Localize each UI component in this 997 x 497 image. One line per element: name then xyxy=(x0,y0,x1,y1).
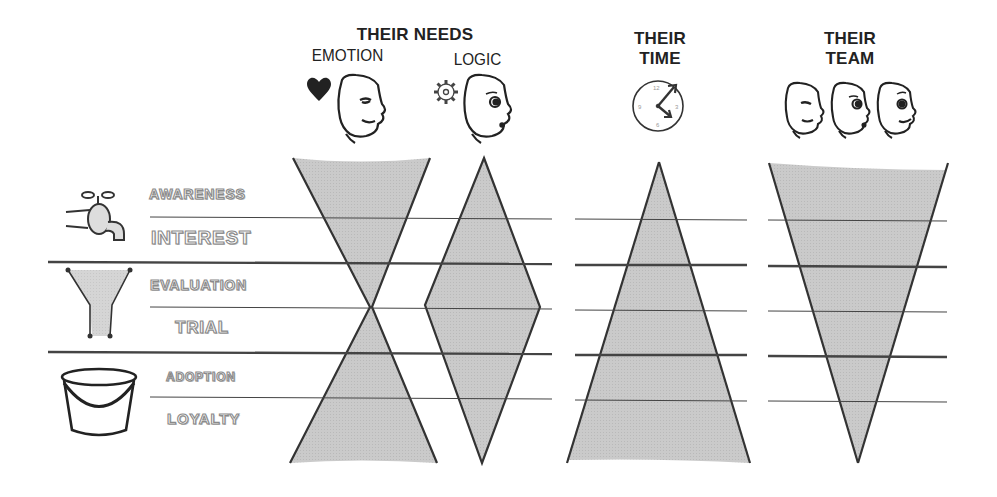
svg-text:12: 12 xyxy=(653,85,660,91)
header-their-time: THEIR TIME xyxy=(620,29,700,69)
stage-loyalty: LOYALTY xyxy=(167,410,240,427)
header-emotion: EMOTION xyxy=(305,46,391,66)
triangle-down-shape-team xyxy=(769,163,948,463)
header-time-line1: THEIR xyxy=(620,29,700,49)
stage-trial: TRIAL xyxy=(175,318,229,338)
header-team-line2: TEAM xyxy=(810,49,890,69)
header-their-needs: THEIR NEEDS xyxy=(320,25,510,45)
header-logic: LOGIC xyxy=(444,50,512,70)
svg-text:9: 9 xyxy=(638,104,642,110)
bucket-icon xyxy=(62,369,136,435)
funnel-icon xyxy=(66,268,133,339)
svg-text:6: 6 xyxy=(656,122,660,128)
hourglass-shape-emotion xyxy=(290,158,437,463)
header-team-line1: THEIR xyxy=(810,29,890,49)
clock-icon: 12 9 3 6 xyxy=(633,81,683,131)
triangle-up-shape-time xyxy=(567,162,750,463)
heart-icon xyxy=(307,78,331,101)
team-face-2 xyxy=(832,83,870,138)
team-face-3 xyxy=(878,83,916,138)
svg-text:3: 3 xyxy=(675,104,679,110)
team-face-1 xyxy=(786,83,824,138)
stage-awareness: AWARENESS xyxy=(149,186,246,202)
diamond-shape-logic xyxy=(425,158,540,463)
header-time-line2: TIME xyxy=(620,49,700,69)
stage-adoption: ADOPTION xyxy=(166,370,236,384)
team-faces-icon xyxy=(786,83,916,138)
tap-icon xyxy=(66,192,124,240)
stage-interest: INTEREST xyxy=(151,227,251,249)
header-their-team: THEIR TEAM xyxy=(810,29,890,69)
funnel-diagram: 12 9 3 6 xyxy=(0,0,997,497)
face-logic-icon xyxy=(464,75,511,143)
gear-icon xyxy=(434,80,458,104)
face-emotion-icon xyxy=(338,75,385,143)
stage-evaluation: EVALUATION xyxy=(150,277,247,293)
